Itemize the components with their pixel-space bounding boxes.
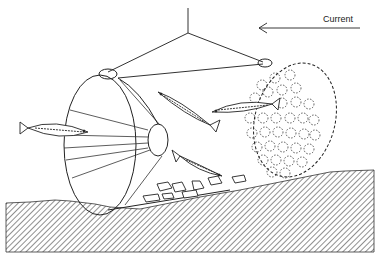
funnel-cone <box>64 80 162 205</box>
fish-top-middle <box>158 92 220 132</box>
funnel-throat <box>148 124 168 156</box>
fish-trap-diagram <box>0 0 383 262</box>
funnel-mouth <box>64 75 136 215</box>
fish-right <box>212 98 280 112</box>
handle-left <box>99 69 117 79</box>
perforated-end-disc <box>241 54 348 187</box>
fish-left <box>20 122 88 136</box>
suspension-rope <box>108 8 263 78</box>
handle-right <box>258 59 272 67</box>
fish-bottom <box>172 150 222 176</box>
seabed <box>6 170 374 252</box>
current-label: Current <box>323 14 353 24</box>
current-arrow <box>259 23 360 33</box>
